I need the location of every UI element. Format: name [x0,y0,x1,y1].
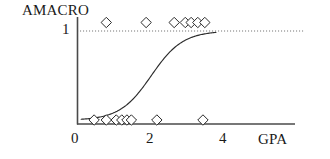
logistic-fit-curve [81,32,216,119]
x-tick-label-0: 0 [71,131,79,146]
x-axis-title: GPA [258,132,287,147]
chart-axes [77,17,295,125]
data-points-amacro-1 [101,17,210,27]
data-point-marker [200,17,210,27]
page-title: AMACRO [22,3,89,18]
data-point-marker [141,17,151,27]
y-tick-label-1: 1 [62,22,70,37]
x-tick-label-2: 2 [146,131,154,146]
data-point-marker [101,17,111,27]
data-point-marker [169,17,179,27]
x-tick-label-4: 4 [219,131,227,146]
